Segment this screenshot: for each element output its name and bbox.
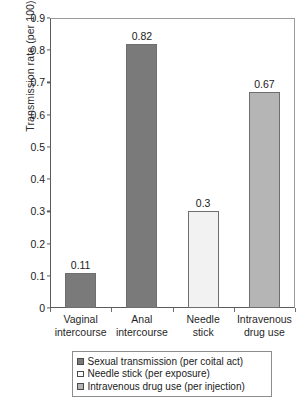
legend-label: Needle stick (per exposure) <box>88 368 210 379</box>
legend-item: Needle stick (per exposure) <box>77 368 266 381</box>
x-tick-mark <box>50 308 51 312</box>
y-tick-mark <box>47 179 51 180</box>
y-tick-label: 0.8 <box>30 44 45 56</box>
y-tick-label: 0.5 <box>30 141 45 153</box>
legend-label: Sexual transmission (per coital act) <box>88 356 244 367</box>
bar <box>126 44 157 308</box>
chart-legend: Sexual transmission (per coital act)Need… <box>72 351 272 397</box>
x-category-label: Vaginalintercourse <box>46 313 115 338</box>
y-tick-label: 0 <box>39 302 45 314</box>
bar <box>188 211 219 308</box>
x-tick-mark <box>234 308 235 312</box>
legend-item: Sexual transmission (per coital act) <box>77 355 266 368</box>
x-tick-mark <box>111 308 112 312</box>
x-category-label-line: Vaginal <box>46 313 115 326</box>
bar-value-label: 0.82 <box>132 30 152 42</box>
y-tick-mark <box>47 50 51 51</box>
y-tick-label: 0.1 <box>30 270 45 282</box>
x-tick-mark <box>295 308 296 312</box>
x-category-label-line: drug use <box>230 326 299 339</box>
x-category-label-line: Anal <box>107 313 176 326</box>
x-category-label-line: stick <box>169 326 238 339</box>
x-category-label-line: intercourse <box>46 326 115 339</box>
y-tick-mark <box>47 146 51 147</box>
y-tick-mark <box>47 211 51 212</box>
bar-value-label: 0.67 <box>254 78 274 90</box>
x-category-label-line: intercourse <box>107 326 176 339</box>
y-tick-mark <box>47 275 51 276</box>
y-tick-label: 0.2 <box>30 238 45 250</box>
y-tick-mark <box>47 243 51 244</box>
x-category-label: Needlestick <box>169 313 238 338</box>
y-tick-mark <box>47 114 51 115</box>
y-tick-label: 0.3 <box>30 205 45 217</box>
legend-swatch <box>77 371 84 378</box>
legend-item: Intravenous drug use (per injection) <box>77 380 266 393</box>
x-category-label-line: Needle <box>169 313 238 326</box>
bar <box>249 92 280 308</box>
y-tick-label: 0.7 <box>30 76 45 88</box>
y-tick-mark <box>47 17 51 18</box>
legend-swatch <box>77 383 84 390</box>
bar-value-label: 0.11 <box>71 259 91 271</box>
bar-chart-figure: Transmission rate (per 100) 00.10.20.30.… <box>0 0 303 399</box>
bar <box>65 273 96 308</box>
y-tick-label: 0.6 <box>30 109 45 121</box>
y-tick-label: 0.9 <box>30 12 45 24</box>
x-tick-mark <box>173 308 174 312</box>
legend-label: Intravenous drug use (per injection) <box>88 381 245 392</box>
y-tick-mark <box>47 82 51 83</box>
bar-value-label: 0.3 <box>196 197 211 209</box>
x-category-label: Analintercourse <box>107 313 176 338</box>
x-category-label: Intravenousdrug use <box>230 313 299 338</box>
y-tick-label: 0.4 <box>30 173 45 185</box>
legend-swatch <box>77 358 84 365</box>
x-category-label-line: Intravenous <box>230 313 299 326</box>
